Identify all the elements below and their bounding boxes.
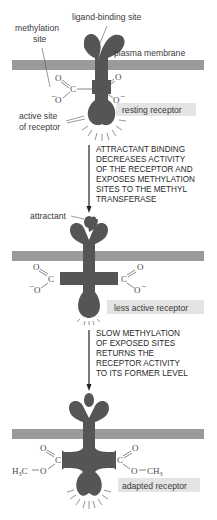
svg-text:O: O — [134, 285, 141, 295]
svg-text:SITES TO THE METHYL: SITES TO THE METHYL — [96, 185, 187, 194]
svg-text:TO ITS FORMER LEVEL: TO ITS FORMER LEVEL — [96, 369, 188, 378]
attractant-label: attractant — [30, 211, 66, 221]
svg-text:O: O — [55, 73, 62, 83]
svg-text:−: − — [51, 91, 56, 101]
svg-text:OF THE RECEPTOR AND: OF THE RECEPTOR AND — [96, 165, 193, 174]
arrowhead-2 — [87, 384, 92, 391]
attractant-leader — [71, 216, 84, 219]
svg-text:−: − — [29, 281, 34, 291]
svg-text:O: O — [137, 262, 144, 272]
state-label-adapted: adapted receptor — [122, 481, 187, 491]
svg-text:OF EXPOSED SITES: OF EXPOSED SITES — [96, 339, 176, 348]
svg-text:C: C — [121, 274, 127, 284]
ligand-binding-site-leader — [100, 26, 107, 43]
plasma-membrane-label: plasma membrane — [114, 48, 185, 58]
state-label-less-active: less active receptor — [114, 303, 188, 313]
plasma-membrane-2 — [12, 251, 204, 261]
methyl-ester-group-right: C O O CH3 — [117, 443, 163, 477]
transition-slow-methylation: SLOW METHYLATION OF EXPOSED SITES RETURN… — [87, 329, 189, 391]
svg-text:H3C: H3C — [12, 466, 28, 477]
stage-less-active-receptor: attractant O C O − C O O − less active r… — [12, 211, 204, 325]
svg-text:O: O — [115, 72, 122, 82]
attractant-molecule-3 — [84, 393, 94, 407]
carboxylate-group-left-1: O C O − — [51, 73, 92, 105]
receptor-adapted — [62, 401, 116, 496]
svg-text:C: C — [55, 455, 61, 465]
svg-text:C: C — [48, 274, 54, 284]
svg-text:O: O — [33, 262, 40, 272]
svg-text:EXPOSES METHYLATION: EXPOSES METHYLATION — [96, 175, 195, 184]
active-site-label-2: of receptor — [19, 122, 60, 132]
svg-text:C: C — [100, 84, 106, 94]
svg-text:−: − — [120, 91, 125, 101]
svg-text:TRANSFERASE: TRANSFERASE — [96, 195, 157, 204]
methylation-site-label-2: site — [33, 34, 47, 44]
state-label-resting: resting receptor — [122, 105, 182, 115]
plasma-membrane-3 — [12, 429, 204, 439]
active-site-leader-1 — [66, 116, 84, 121]
stage-resting-receptor: O C O − C O O − ligand-binding site meth… — [12, 12, 204, 141]
svg-text:RECEPTOR ACTIVITY: RECEPTOR ACTIVITY — [96, 359, 181, 368]
arrowhead-1 — [87, 206, 92, 213]
svg-text:O: O — [40, 443, 47, 453]
svg-text:ATTRACTANT BINDING: ATTRACTANT BINDING — [96, 145, 185, 154]
activity-rays-weak — [77, 319, 100, 325]
svg-text:SLOW METHYLATION: SLOW METHYLATION — [96, 329, 180, 338]
svg-text:CH3: CH3 — [147, 466, 163, 477]
svg-text:O: O — [40, 466, 47, 476]
active-site-label-1: active site — [19, 111, 57, 121]
carboxylate-group-left-2: O C O − — [29, 262, 54, 295]
svg-text:C: C — [70, 84, 76, 94]
transition-attractant-binding: ATTRACTANT BINDING DECREASES ACTIVITY OF… — [87, 145, 196, 213]
svg-text:DECREASES ACTIVITY: DECREASES ACTIVITY — [96, 155, 186, 164]
receptor-adaptation-diagram: O C O − C O O − ligand-binding site meth… — [0, 0, 217, 520]
svg-text:O: O — [34, 285, 41, 295]
svg-text:C: C — [117, 455, 123, 465]
svg-text:O: O — [131, 466, 138, 476]
carboxylate-group-right-2: C O O − — [121, 262, 146, 295]
svg-text:O: O — [132, 443, 139, 453]
methyl-ester-group-left: O C O H3C — [12, 443, 61, 477]
svg-text:RETURNS THE: RETURNS THE — [96, 349, 155, 358]
active-site-leader-2 — [67, 119, 85, 123]
svg-text:−: − — [141, 281, 146, 291]
ligand-binding-site-label: ligand-binding site — [72, 12, 141, 22]
stage-adapted-receptor: O C O H3C C O O CH3 adapted receptor — [12, 393, 204, 509]
methylation-site-label-1: methylation — [15, 23, 59, 33]
